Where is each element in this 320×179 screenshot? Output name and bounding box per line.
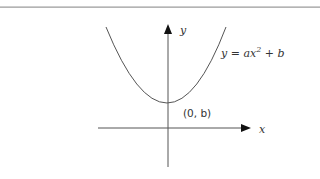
equation-rhs: + b — [261, 47, 284, 60]
x-axis-arrow-icon — [241, 124, 251, 132]
x-axis-label: x — [259, 123, 266, 136]
parabola-diagram: y x y = ax2 + b (0, b) — [0, 0, 320, 179]
y-axis-label: y — [179, 24, 187, 37]
parabola-curve — [106, 27, 226, 103]
equation-label: y = ax2 + b — [220, 45, 285, 60]
vertex-label: (0, b) — [183, 107, 211, 119]
y-axis-arrow-icon — [164, 24, 172, 34]
equation-lhs: y = ax — [220, 47, 257, 60]
